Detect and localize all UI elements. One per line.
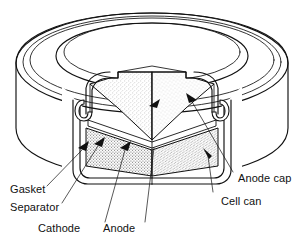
label-separator: Separator (10, 201, 59, 213)
button-cell-cutaway-diagram: Gasket Separator Cathode Anode Anode cap… (0, 0, 304, 244)
figure-container: Gasket Separator Cathode Anode Anode cap… (0, 0, 304, 244)
label-cell-can: Cell can (221, 195, 262, 207)
label-anode: Anode (103, 222, 135, 234)
label-cathode: Cathode (38, 222, 80, 234)
label-gasket: Gasket (10, 183, 45, 195)
label-anode-cap: Anode cap (238, 172, 292, 184)
